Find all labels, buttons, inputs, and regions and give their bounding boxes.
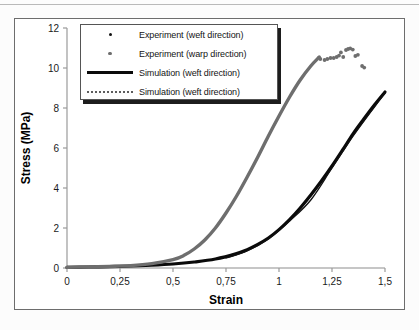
legend-item-experiment-weft[interactable]: Experiment (weft direction) <box>81 25 277 44</box>
data-point <box>341 55 345 59</box>
x-axis-title: Strain <box>209 293 243 307</box>
legend-key-dot-dark-icon <box>81 33 139 36</box>
x-tick-label: 1 <box>276 276 282 287</box>
chart-legend: Experiment (weft direction) Experiment (… <box>80 24 278 100</box>
legend-label: Simulation (weft direction) <box>139 68 240 78</box>
y-tick-label: 0 <box>53 263 59 274</box>
legend-label: Experiment (warp direction) <box>139 49 246 59</box>
data-point <box>337 54 341 58</box>
y-axis-title: Stress (MPa) <box>19 112 33 185</box>
y-tick-label: 10 <box>48 63 60 74</box>
x-tick-label: 0,5 <box>166 276 180 287</box>
data-point <box>339 51 343 55</box>
data-point <box>356 53 360 57</box>
legend-label: Experiment (weft direction) <box>139 30 243 40</box>
x-tick-label: 0 <box>64 276 70 287</box>
legend-key-dot-gray-icon <box>81 52 139 56</box>
legend-key-dashed-line-icon <box>81 91 139 93</box>
data-point <box>362 66 366 70</box>
x-tick-label: 0,75 <box>216 276 236 287</box>
legend-key-solid-line-icon <box>81 71 139 73</box>
series-line-simulation-weft-solid <box>67 92 385 267</box>
y-tick-label: 6 <box>53 143 59 154</box>
x-tick-label: 1,25 <box>322 276 342 287</box>
legend-item-simulation-weft-solid[interactable]: Simulation (weft direction) <box>81 63 277 82</box>
y-tick-label: 4 <box>53 183 59 194</box>
y-tick-label: 2 <box>53 223 59 234</box>
data-point <box>351 48 355 52</box>
legend-item-experiment-warp[interactable]: Experiment (warp direction) <box>81 44 277 63</box>
x-tick-label: 1,5 <box>378 276 392 287</box>
series-scatter-experiment-warp <box>318 47 366 70</box>
y-tick-label: 12 <box>48 23 60 34</box>
x-tick-label: 0,25 <box>110 276 130 287</box>
legend-label: Simulation (weft direction) <box>139 87 240 97</box>
y-tick-label: 8 <box>53 103 59 114</box>
legend-item-simulation-weft-dashed[interactable]: Simulation (weft direction) <box>81 82 277 101</box>
